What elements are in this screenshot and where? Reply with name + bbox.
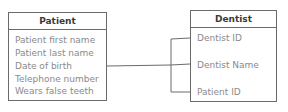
patient-attribute: Wears false teeth [15,86,94,97]
dentist-entity-title: Dentist [191,11,276,28]
dentist-attribute: Patient ID [197,87,241,98]
patient-attribute: Telephone number [15,74,99,85]
patient-attribute: Date of birth [15,61,72,72]
patient-attribute: Patient first name [15,35,95,46]
dentist-attribute: Dentist Name [197,60,259,71]
dentist-entity: Dentist Dentist ID Dentist Name Patient … [190,10,277,102]
dentist-attribute: Dentist ID [197,33,242,44]
patient-attribute: Patient last name [15,48,94,59]
patient-entity-title: Patient [9,13,106,30]
patient-entity: Patient Patient first name Patient last … [8,12,107,101]
